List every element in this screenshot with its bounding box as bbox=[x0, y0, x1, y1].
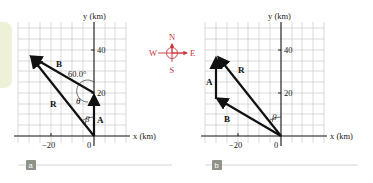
panel-tag-b: b bbox=[215, 161, 219, 170]
x-tick-label-0-a: 0 bbox=[87, 140, 91, 150]
y-tick-label-40-b: 40 bbox=[284, 45, 293, 55]
compass-north: N bbox=[169, 32, 175, 42]
angle-label-60-a: 60.0° bbox=[68, 69, 86, 79]
angle-label-beta-b: β bbox=[271, 112, 277, 122]
vector-label-A-b: A⃗ bbox=[206, 77, 220, 87]
y-tick-label-20-b: 20 bbox=[284, 88, 293, 98]
compass-east: E bbox=[190, 48, 195, 58]
y-axis-label-b: y (km) bbox=[268, 11, 291, 21]
x-tick-label-neg20-b: −20 bbox=[229, 140, 242, 150]
panel-b: y (km) x (km) −20 0 40 20 A⃗ B⃗ R⃗ β b bbox=[201, 11, 358, 170]
vector-diagram: y (km) x (km) −20 0 40 20 B⃗ R⃗ A⃗ 60.0°… bbox=[0, 0, 373, 183]
compass-west: W bbox=[149, 48, 157, 58]
x-axis-label-a: x (km) bbox=[133, 131, 156, 141]
vector-label-R-b: R⃗ bbox=[238, 65, 252, 75]
x-axis-label-b: x (km) bbox=[330, 131, 353, 141]
y-tick-label-20-a: 20 bbox=[97, 88, 106, 98]
vector-label-A-a: A⃗ bbox=[97, 115, 111, 125]
vector-label-B-b: B⃗ bbox=[224, 114, 237, 124]
angle-label-beta-a: β bbox=[84, 114, 90, 124]
angle-label-theta-a: θ bbox=[76, 96, 81, 106]
x-tick-label-0-b: 0 bbox=[274, 140, 278, 150]
x-tick-label-neg20-a: −20 bbox=[42, 140, 55, 150]
compass-south: S bbox=[170, 65, 175, 75]
vector-label-B-a: B⃗ bbox=[56, 59, 69, 69]
panel-a: y (km) x (km) −20 0 40 20 B⃗ R⃗ A⃗ 60.0°… bbox=[14, 11, 172, 170]
y-axis-label-a: y (km) bbox=[83, 11, 106, 21]
vector-label-R-a: R⃗ bbox=[50, 99, 64, 109]
grid-b bbox=[205, 22, 324, 143]
y-tick-label-40-a: 40 bbox=[97, 45, 106, 55]
compass-rose: N S W E bbox=[149, 32, 195, 75]
